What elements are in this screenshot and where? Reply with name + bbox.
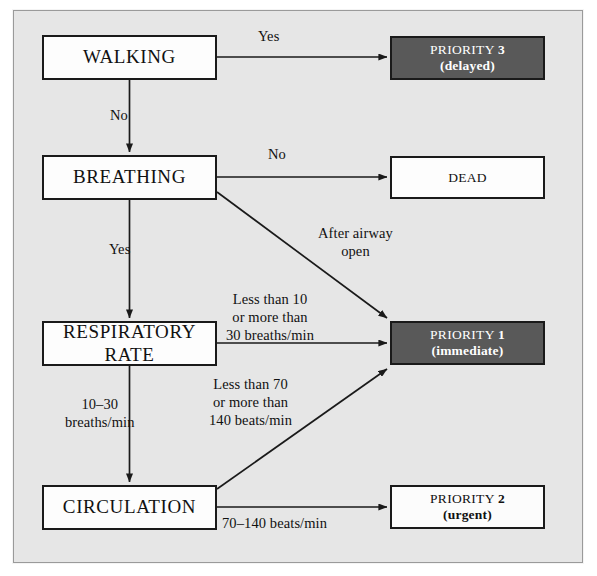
edge-label-circulation-abnormal: Less than 70 or more than 140 beats/min bbox=[209, 376, 292, 430]
edge-label-walking-no: No bbox=[110, 107, 128, 125]
edge-label-breathing-no: No bbox=[268, 146, 286, 164]
edge-label-circulation-normal: 70–140 beats/min bbox=[222, 515, 327, 533]
edge-label-respiratory-normal: 10–30 breaths/min bbox=[65, 396, 135, 432]
node-dead[interactable]: DEAD bbox=[390, 156, 545, 199]
node-priority-1[interactable]: PRIORITY 1 (immediate) bbox=[390, 321, 545, 365]
triage-flowchart: WALKING BREATHING RESPIRATORY RATE CIRCU… bbox=[0, 0, 597, 576]
node-priority-1-sub: (immediate) bbox=[432, 343, 504, 359]
node-priority-2-label: PRIORITY 2 bbox=[430, 491, 505, 507]
node-priority-2-sub: (urgent) bbox=[443, 507, 492, 523]
node-priority-1-label: PRIORITY 1 bbox=[430, 327, 505, 343]
node-walking[interactable]: WALKING bbox=[42, 35, 217, 80]
node-circulation[interactable]: CIRCULATION bbox=[42, 485, 217, 530]
node-priority-3[interactable]: PRIORITY 3 (delayed) bbox=[390, 36, 545, 80]
node-priority-2[interactable]: PRIORITY 2 (urgent) bbox=[390, 485, 545, 529]
node-walking-label: WALKING bbox=[83, 46, 176, 68]
edge-label-walking-yes: Yes bbox=[258, 28, 279, 46]
node-dead-label: DEAD bbox=[448, 170, 487, 186]
node-breathing[interactable]: BREATHING bbox=[42, 155, 217, 200]
edge-label-respiratory-abnormal: Less than 10 or more than 30 breaths/min bbox=[226, 291, 314, 345]
node-breathing-label: BREATHING bbox=[73, 166, 186, 188]
edge-label-breathing-yes: Yes bbox=[109, 241, 130, 259]
node-respiratory-rate-label: RESPIRATORY RATE bbox=[44, 321, 215, 366]
node-respiratory-rate[interactable]: RESPIRATORY RATE bbox=[42, 321, 217, 366]
edge-label-after-airway-open: After airway open bbox=[318, 225, 393, 261]
node-priority-3-sub: (delayed) bbox=[440, 58, 495, 74]
node-priority-3-label: PRIORITY 3 bbox=[430, 42, 505, 58]
node-circulation-label: CIRCULATION bbox=[63, 496, 196, 518]
